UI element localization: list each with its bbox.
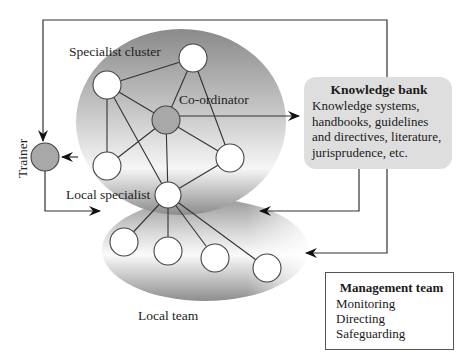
trainer-label: Trainer — [15, 138, 30, 178]
specialist-node — [93, 71, 121, 99]
team-member-node — [110, 228, 138, 256]
team-member-node — [154, 237, 182, 265]
local-specialist-node — [155, 182, 181, 208]
management-team-box: Management team Monitoring Directing Saf… — [325, 272, 454, 350]
specialist-node — [216, 144, 244, 172]
local-team-label: Local team — [138, 308, 199, 323]
local-specialist-label: Local specialist — [66, 187, 151, 202]
knowledge-bank-line: handbooks, guidelines — [312, 114, 446, 130]
specialist-node — [93, 152, 121, 180]
management-team-item: Safeguarding — [336, 326, 447, 341]
management-team-item: Directing — [336, 311, 447, 326]
team-member-node — [253, 254, 281, 282]
trainer-node — [31, 143, 59, 171]
knowledge-bank-line: jurisprudence, etc. — [312, 145, 446, 161]
team-member-node — [201, 244, 229, 272]
knowledge-bank-box: Knowledge bank Knowledge systems, handbo… — [304, 77, 452, 169]
specialist-node — [179, 44, 207, 72]
kb-to-cluster-line — [260, 169, 359, 211]
management-team-title: Management team — [336, 280, 447, 295]
coordinator-label: Co-ordinator — [179, 92, 249, 107]
coordinator-node — [152, 106, 180, 134]
management-team-item: Monitoring — [336, 296, 447, 311]
knowledge-bank-line: Knowledge systems, — [312, 98, 446, 114]
specialist-cluster-label: Specialist cluster — [69, 44, 161, 59]
knowledge-bank-title: Knowledge bank — [312, 82, 446, 98]
knowledge-bank-line: and directives, literature, — [312, 129, 446, 145]
